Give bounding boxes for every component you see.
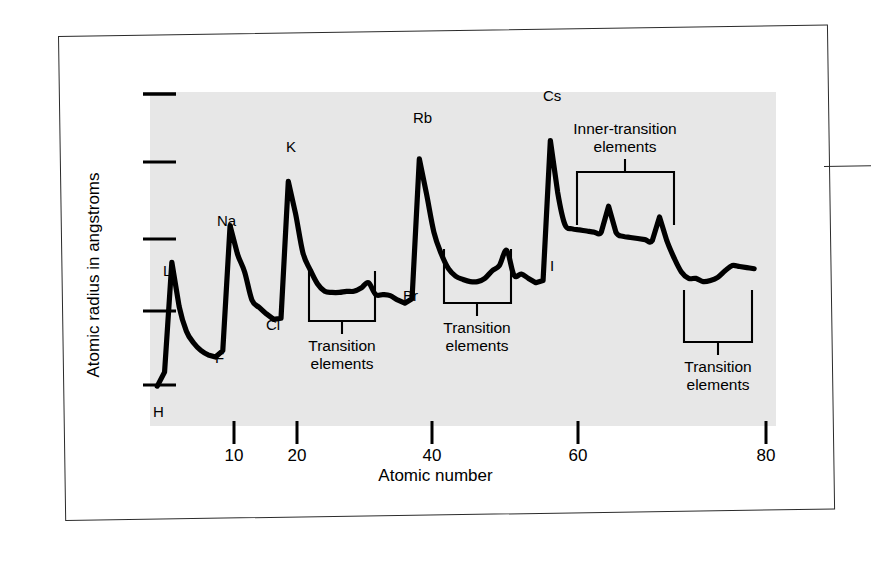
- x-tick-label-20: 20: [277, 447, 317, 464]
- bracket-4-label-line1: Transition: [658, 358, 778, 376]
- point-label-I: I: [550, 258, 554, 273]
- bracket-2-label-line1: Transition: [417, 319, 537, 337]
- point-label-Cl: Cl: [266, 317, 280, 332]
- x-axis-ticks: [234, 421, 766, 444]
- bracket-3-label-line2: elements: [552, 138, 698, 156]
- bracket-4-label: Transition elements: [658, 358, 778, 394]
- y-axis-title-rotor: Atomic radius in angstroms: [84, 0, 106, 140]
- y-axis-ticks: [143, 94, 176, 385]
- point-label-F: F: [215, 350, 224, 365]
- bracket-3-label: Inner-transition elements: [552, 120, 698, 156]
- bracket-3-label-line1: Inner-transition: [552, 120, 698, 138]
- bracket-1-shape: [309, 271, 375, 321]
- x-tick-label-10: 10: [214, 447, 254, 464]
- bracket-1-label-line1: Transition: [282, 337, 402, 355]
- x-tick-label-60: 60: [558, 447, 598, 464]
- x-tick-label-80: 80: [746, 447, 786, 464]
- point-label-K: K: [286, 139, 296, 154]
- point-label-Rb: Rb: [413, 110, 432, 125]
- x-tick-label-40: 40: [412, 447, 452, 464]
- bracket-2-label: Transition elements: [417, 319, 537, 355]
- bracket-2-label-line2: elements: [417, 337, 537, 355]
- bracket-4-shape: [684, 290, 752, 342]
- bracket-1-label-line2: elements: [282, 355, 402, 373]
- bracket-3-shape: [577, 172, 674, 225]
- bracket-4-label-line2: elements: [658, 376, 778, 394]
- bracket-1-label: Transition elements: [282, 337, 402, 373]
- point-label-Li: Li: [163, 263, 175, 278]
- atomic-radius-chart: H Li F Na Cl K Br Rb I Cs Transition ele…: [0, 0, 871, 561]
- x-axis-title: Atomic number: [0, 466, 871, 486]
- point-label-H: H: [153, 404, 164, 419]
- point-label-Br: Br: [403, 288, 418, 303]
- point-label-Cs: Cs: [543, 88, 561, 103]
- bracket-2-shape: [444, 249, 511, 303]
- y-axis-title: Atomic radius in angstroms: [84, 140, 104, 410]
- point-label-Na: Na: [217, 213, 236, 228]
